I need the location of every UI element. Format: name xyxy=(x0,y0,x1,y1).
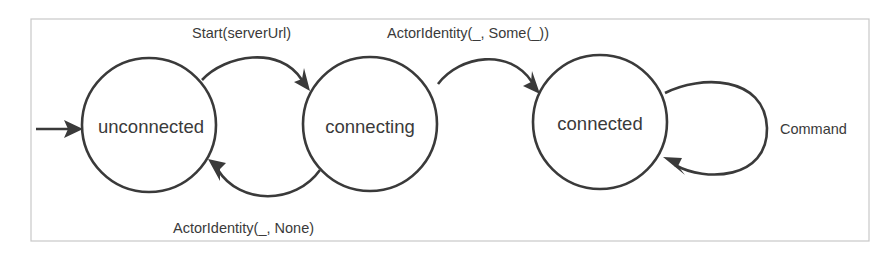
transition-label-actor-identity-some: ActorIdentity(_, Some(_)) xyxy=(387,25,549,41)
transition-command: Command xyxy=(663,82,847,175)
transition-start: Start(serverUrl) xyxy=(192,25,310,91)
state-machine-diagram: Start(serverUrl) ActorIdentity(_, Some(_… xyxy=(0,0,892,253)
transition-label-command: Command xyxy=(780,121,847,137)
state-label-unconnected: unconnected xyxy=(98,116,204,137)
state-label-connected: connected xyxy=(557,113,642,134)
state-label-connecting: connecting xyxy=(325,116,414,137)
transition-label-start: Start(serverUrl) xyxy=(192,25,291,41)
initial-arrow xyxy=(36,120,83,138)
state-unconnected: unconnected xyxy=(82,58,216,192)
state-connecting: connecting xyxy=(303,57,437,191)
arrowhead-icon xyxy=(663,157,685,175)
state-connected: connected xyxy=(533,55,667,189)
transition-label-actor-identity-none: ActorIdentity(_, None) xyxy=(173,220,314,236)
